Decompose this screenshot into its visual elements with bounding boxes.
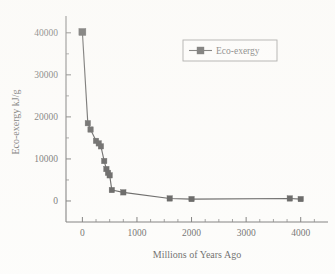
chart-figure: 010000200003000040000 01000200030004000 …: [0, 0, 335, 274]
y-tick-label: 0: [53, 196, 58, 206]
data-point-marker: [167, 196, 172, 201]
x-tick-label: 3000: [237, 228, 256, 238]
data-point-marker: [109, 187, 114, 192]
x-tick-label: 2000: [182, 228, 201, 238]
x-tick-label: 4000: [291, 228, 310, 238]
y-tick-label: 30000: [34, 70, 58, 80]
data-point-marker: [287, 196, 292, 201]
data-point-marker: [88, 127, 93, 132]
data-point-marker: [98, 144, 103, 149]
y-tick-marks: [66, 33, 71, 201]
x-tick-label: 0: [80, 228, 85, 238]
data-point-marker: [298, 196, 303, 201]
legend: Eco-exergy: [183, 40, 277, 61]
legend-marker-icon: [197, 47, 204, 54]
y-tick-label: 40000: [34, 28, 58, 38]
data-point-marker: [121, 190, 126, 195]
x-tick-labels: 01000200030004000: [80, 228, 310, 238]
data-point-marker: [189, 196, 194, 201]
x-tick-marks: [82, 217, 314, 222]
y-axis-title: Eco-exergy kJ/g: [10, 89, 21, 154]
legend-label-eco-exergy: Eco-exergy: [216, 46, 260, 56]
data-point-marker: [79, 28, 86, 35]
eco-exergy-line-chart: 010000200003000040000 01000200030004000 …: [0, 0, 335, 274]
y-tick-labels: 010000200003000040000: [34, 28, 58, 206]
y-tick-label: 20000: [34, 112, 58, 122]
data-point-marker: [107, 173, 112, 178]
data-point-marker: [102, 158, 107, 163]
data-point-marker: [85, 121, 90, 126]
y-tick-label: 10000: [34, 154, 58, 164]
x-tick-label: 1000: [127, 228, 146, 238]
x-axis-title: Millions of Years Ago: [153, 249, 241, 260]
